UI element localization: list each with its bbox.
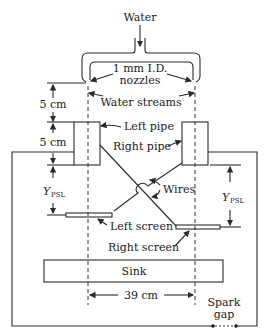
left-pipe (74, 122, 100, 165)
spark-gap-electrode-right (234, 324, 238, 328)
left-screen-label: Left screen (110, 220, 173, 233)
dim-5cm-lower: 5 cm (39, 136, 67, 149)
wires-label: Wires (163, 183, 195, 196)
circuit-left-wire (12, 152, 213, 326)
left-screen-pointer (98, 219, 107, 225)
nozzle-left-pointer (91, 74, 113, 81)
left-screen (66, 213, 112, 217)
water-label: Water (123, 11, 157, 24)
nozzles-label-line2: nozzles (120, 74, 161, 87)
right-pipe-label: Right pipe (113, 140, 171, 153)
dim-5cm-upper: 5 cm (39, 98, 67, 111)
ypsl-right-subscript: PSL (230, 197, 245, 205)
dim-39cm-label: 39 cm (124, 289, 159, 302)
ypsl-left-subscript: PSL (51, 191, 66, 199)
left-pipe-label: Left pipe (124, 120, 174, 133)
right-screen-label: Right screen (108, 241, 179, 254)
water-streams-label: Water streams (100, 96, 181, 109)
left-pipe-pointer (101, 125, 121, 127)
streams-left-pointer (89, 93, 103, 96)
streams-right-pointer (179, 93, 194, 96)
right-screen-pointer (175, 231, 189, 246)
nozzle-right-pointer (167, 74, 191, 81)
spark-gap-label-line2: gap (214, 308, 235, 321)
right-screen (176, 225, 220, 229)
sink-label: Sink (122, 265, 147, 278)
wires-pointer-lower (152, 190, 160, 197)
apparatus-diagram: Water 1 mm I.D. nozzles Water streams 5 … (0, 0, 267, 336)
spark-gap-electrode-left (211, 324, 215, 328)
